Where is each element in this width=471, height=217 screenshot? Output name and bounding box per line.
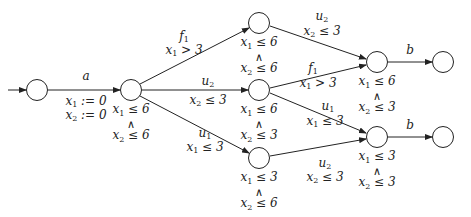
state-s0 [27,80,48,101]
state-s6 [433,52,454,73]
state-s1 [121,80,142,101]
edge-action-u2: u2 [202,75,215,91]
edge-guard-s3-s5: x1 > 3 [299,77,336,93]
edge-action-a: a [82,70,89,83]
edge-guard-s3-s7: x1 ≤ 3 [306,115,343,131]
invariant-s3: x1 ≤ 6 ∧ x2 ≤ 3 [240,103,277,147]
invariant-s1: x1 ≤ 6 ∧ x2 ≤ 6 [112,103,149,147]
invariant-s7: x1 ≤ 3 ∧ x2 ≤ 3 [358,150,395,194]
invariant-s5: x1 ≤ 6 ∧ x2 ≤ 3 [358,75,395,119]
edge-guard-s1-s2: x1 > 3 [165,44,202,60]
invariant-s2: x1 ≤ 6 ∧ x2 ≤ 6 [240,36,277,80]
edge-guard-s2-s5: x2 ≤ 3 [303,25,340,41]
edge-action-b-top: b [406,44,414,57]
state-s5 [367,52,388,73]
edge-s4-s7 [270,139,366,156]
state-s2 [249,13,270,34]
state-s8 [433,127,454,148]
state-s7 [367,127,388,148]
edge-guard-s4-s7: x2 ≤ 3 [306,171,343,187]
state-s3 [249,80,270,101]
state-s4 [249,148,270,169]
edge-guard-s1-s4: x1 ≤ 3 [186,141,223,157]
invariant-s4: x1 ≤ 3 ∧ x2 ≤ 6 [240,171,277,215]
edge-guard-s1-s3: x2 ≤ 3 [189,94,226,110]
edge-reset-x2: x2 := 0 [65,109,106,125]
edge-action-b-bottom: b [406,119,414,132]
